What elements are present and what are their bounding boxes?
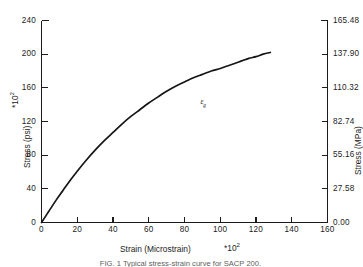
y-right-tick-label-27-58: 27.58 [333, 184, 355, 193]
x-tick-label-40: 40 [103, 225, 123, 234]
x-tick-label-140: 140 [282, 225, 302, 234]
yield-strain-marker: εg [200, 97, 206, 106]
x-axis-multiplier-base: *10 [224, 243, 237, 253]
x-tick-label-160: 160 [318, 225, 338, 234]
x-tick-label-80: 80 [175, 225, 195, 234]
x-tick-label-0: 0 [32, 225, 52, 234]
y-left-tick-label-160: 160 [8, 83, 36, 92]
y-axis-left-title: Stress (psi) [22, 126, 32, 168]
y-right-tick-label-165-48: 165.48 [333, 16, 359, 25]
x-axis-ticks [77, 217, 292, 223]
stress-strain-curve [42, 52, 271, 222]
x-axis-multiplier: *102 [224, 243, 240, 253]
epsilon-subscript: g [203, 101, 206, 107]
y-axis-left-multiplier-exponent: 2 [8, 92, 15, 95]
x-axis-multiplier-exponent: 2 [237, 241, 240, 248]
x-tick-label-20: 20 [67, 225, 87, 234]
x-tick-label-60: 60 [139, 225, 159, 234]
y-right-tick-label-137-90: 137.90 [333, 49, 359, 58]
y-axis-left-multiplier: *102 [10, 92, 20, 108]
y-axis-right-title: Stress (MPa) [353, 126, 363, 175]
y-left-tick-label-200: 200 [8, 49, 36, 58]
figure-caption: FIG. 1 Typical stress-strain curve for S… [0, 259, 361, 267]
y-right-tick-label-55-16: 55.16 [333, 150, 355, 159]
x-axis-title: Strain (Microstrain) [120, 244, 191, 254]
y-left-tick-label-40: 40 [8, 184, 36, 193]
y-right-tick-label-82-74: 82.74 [333, 117, 355, 126]
x-tick-label-100: 100 [210, 225, 230, 234]
x-tick-label-120: 120 [246, 225, 266, 234]
y-left-tick-label-240: 240 [8, 16, 36, 25]
y-axis-left-ticks [42, 54, 48, 189]
y-axis-right-ticks [322, 54, 328, 189]
y-left-tick-label-120: 120 [8, 117, 36, 126]
y-right-tick-label-110-32: 110.32 [333, 83, 359, 92]
y-axis-left-multiplier-base: *10 [10, 95, 20, 108]
